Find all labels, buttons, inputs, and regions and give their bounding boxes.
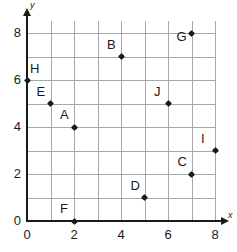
point-label-d: D (131, 178, 140, 193)
x-tick-label: 4 (113, 227, 129, 242)
point-label-j: J (154, 84, 161, 99)
gridline-vertical (51, 21, 52, 221)
y-tick-label: 6 (7, 72, 21, 87)
gridline-vertical (74, 21, 75, 221)
point-label-b: B (107, 37, 116, 52)
gridline-horizontal (27, 33, 215, 34)
gridline-vertical (168, 21, 169, 221)
gridline-vertical (215, 21, 216, 221)
y-tick-label: 4 (7, 119, 21, 134)
y-tick-label: 2 (7, 166, 21, 181)
x-tick-label: 8 (207, 227, 223, 242)
x-tick-label: 0 (19, 227, 35, 242)
grid-area (27, 21, 215, 221)
gridline-vertical (192, 21, 193, 221)
x-tick-label: 6 (160, 227, 176, 242)
gridline-horizontal (27, 80, 215, 81)
point-label-i: I (201, 131, 205, 146)
x-tick-label: 2 (66, 227, 82, 242)
gridline-vertical (145, 21, 146, 221)
gridline-horizontal (27, 151, 215, 152)
point-label-h: H (30, 61, 39, 76)
x-axis-line (27, 220, 222, 222)
gridline-vertical (121, 21, 122, 221)
point-label-g: G (177, 29, 187, 44)
coordinate-grid-figure: y x 0246802468 ABCDEFGHIJ (0, 0, 237, 252)
gridline-vertical (98, 21, 99, 221)
gridline-horizontal (27, 198, 215, 199)
point-label-c: C (178, 154, 187, 169)
y-tick-label: 0 (7, 213, 21, 228)
gridline-horizontal (27, 127, 215, 128)
y-axis-label: y (30, 0, 35, 10)
point-label-f: F (60, 201, 68, 216)
point-label-e: E (37, 84, 46, 99)
point-label-a: A (60, 107, 69, 122)
gridline-horizontal (27, 104, 215, 105)
gridline-horizontal (27, 174, 215, 175)
y-tick-label: 8 (7, 25, 21, 40)
x-axis-label: x (228, 210, 233, 220)
y-axis-line (26, 16, 28, 222)
